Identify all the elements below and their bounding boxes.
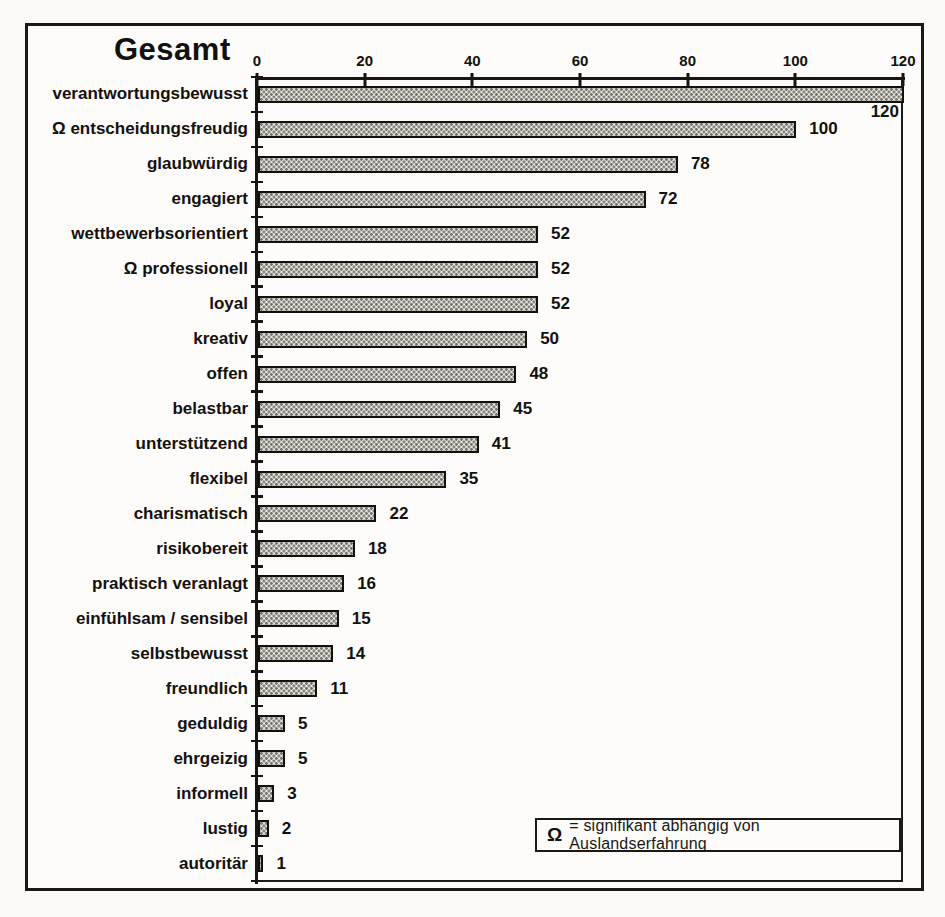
category-label: ehrgeizig [32,749,248,769]
category-label: selbstbewusst [32,644,248,664]
bar-value-label: 2 [282,819,291,839]
category-label: geduldig [32,714,248,734]
y-axis-tick [251,740,263,743]
category-label: charismatisch [32,504,248,524]
bar-value-label: 3 [287,784,296,804]
y-axis-tick [251,495,263,498]
category-label: informell [32,784,248,804]
bar [258,750,285,767]
x-axis-tick [579,73,582,86]
y-axis-tick [251,845,263,848]
plot-area: 0204060801001201201007872525252504845413… [257,77,903,881]
category-label: Ω entscheidungsfreudig [32,119,248,139]
x-axis-tick [363,73,366,86]
bar-value-label: 5 [298,714,307,734]
plot-right-border [901,77,903,882]
x-axis-tick [902,73,905,86]
bar [258,86,904,103]
y-axis-tick [251,76,263,79]
y-axis-tick [251,146,263,149]
category-label: flexibel [32,469,248,489]
y-axis-tick [251,216,263,219]
bar [258,785,274,802]
y-axis-tick [251,600,263,603]
bar-value-label: 16 [357,574,376,594]
bar [258,296,538,313]
x-axis-tick-label: 60 [572,52,589,69]
y-axis-tick [251,705,263,708]
category-label: Ω professionell [32,259,248,279]
x-axis-tick-label: 80 [679,52,696,69]
bar-value-label: 48 [529,364,548,384]
chart-title: Gesamt [114,32,231,68]
bar [258,121,796,138]
bar-value-label: 1 [276,854,285,874]
category-label: lustig [32,819,248,839]
category-label: freundlich [32,679,248,699]
category-label: verantwortungsbewusst [32,84,248,104]
x-axis-tick [471,73,474,86]
category-label: einfühlsam / sensibel [32,609,248,629]
y-axis-tick [251,775,263,778]
bar-value-label: 52 [551,224,570,244]
x-axis-tick-label: 20 [356,52,373,69]
bar [258,540,355,557]
bar [258,366,516,383]
bar-value-label: 100 [809,119,837,139]
y-axis-tick [251,530,263,533]
bar [258,855,263,872]
bar-value-label: 52 [551,294,570,314]
bar-value-label: 52 [551,259,570,279]
category-label: engagiert [32,189,248,209]
bar-value-label: 120 [871,102,899,122]
y-axis-tick [251,460,263,463]
y-axis-tick [251,670,263,673]
y-axis-tick [251,390,263,393]
significance-symbol: Ω [547,824,562,846]
y-axis-tick [251,111,263,114]
bar [258,436,479,453]
plot-bottom-border [257,880,903,882]
bar [258,471,446,488]
category-label: offen [32,364,248,384]
bar-value-label: 5 [298,749,307,769]
legend-box: Ω = signifikant abhängig von Auslandserf… [535,818,901,852]
bar [258,645,333,662]
bar [258,226,538,243]
bar [258,610,339,627]
category-label: unterstützend [32,434,248,454]
bar-value-label: 15 [352,609,371,629]
bar [258,505,376,522]
bar [258,401,500,418]
y-axis-tick [251,635,263,638]
bar [258,331,527,348]
bar-value-label: 72 [659,189,678,209]
category-label: autoritär [32,854,248,874]
category-label: glaubwürdig [32,154,248,174]
bar [258,191,646,208]
bar-value-label: 78 [691,154,710,174]
y-axis-tick [251,565,263,568]
bar-value-label: 14 [346,644,365,664]
category-label: belastbar [32,399,248,419]
category-label: kreativ [32,329,248,349]
chart-frame: Gesamt verantwortungsbewusstΩ entscheidu… [25,23,924,891]
category-label: risikobereit [32,539,248,559]
category-label: wettbewerbsorientiert [32,224,248,244]
x-axis-tick-label: 100 [783,52,808,69]
bar-value-label: 22 [389,504,408,524]
category-label: loyal [32,294,248,314]
bar-value-label: 35 [459,469,478,489]
x-axis-tick [794,73,797,86]
bar [258,715,285,732]
x-axis-tick-label: 120 [890,52,915,69]
category-axis-labels: verantwortungsbewusstΩ entscheidungsfreu… [32,77,248,881]
x-axis-tick-label: 40 [464,52,481,69]
bar-value-label: 45 [513,399,532,419]
scanned-chart-page: { "chart_data": { "type": "bar", "orient… [0,0,945,917]
bar [258,680,317,697]
y-axis-tick [251,251,263,254]
bar [258,261,538,278]
y-axis-tick [251,425,263,428]
bar [258,156,678,173]
